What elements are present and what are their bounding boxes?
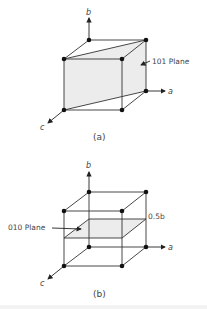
c-axis-label-b: c xyxy=(40,279,45,288)
b-axis-label-b: b xyxy=(86,161,91,170)
caption-b: (b) xyxy=(93,289,106,299)
height-label: 0.5b xyxy=(148,212,165,221)
c-axis-label-a: c xyxy=(40,123,45,132)
c-axis-b xyxy=(48,266,64,279)
truncated-caption-line xyxy=(0,305,207,309)
figure-a: 101 Plane b a c (a) xyxy=(40,8,190,142)
plane-010-label: 010 Plane xyxy=(8,223,46,232)
a-axis-label-a: a xyxy=(168,87,173,96)
crystal-planes-diagram: 101 Plane b a c (a) xyxy=(0,0,207,309)
plane-101 xyxy=(64,40,146,110)
a-axis-label-b: a xyxy=(168,243,173,252)
figure-b: 010 Plane 0.5b b a c (b) xyxy=(8,161,173,299)
c-axis-a xyxy=(48,110,64,123)
caption-a: (a) xyxy=(93,132,106,142)
b-axis-label-a: b xyxy=(86,8,91,17)
plane-101-label: 101 Plane xyxy=(152,57,190,66)
